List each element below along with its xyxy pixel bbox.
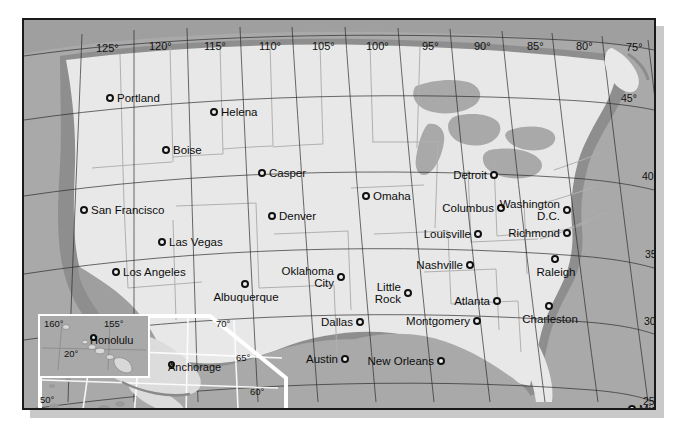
- hawaii-graticule-label-1: 155°: [104, 318, 124, 329]
- city-marker-icon: [337, 273, 345, 281]
- city-label: Miami: [639, 403, 656, 410]
- city-marker-icon: [210, 108, 218, 116]
- city-label: Los Angeles: [123, 266, 186, 279]
- alaska-graticule-label-0: 70°: [216, 318, 230, 329]
- city-marker-icon: [628, 405, 636, 410]
- city-marker-icon: [473, 317, 481, 325]
- latitude-label-1: 40°: [642, 170, 656, 182]
- city-label: Richmond: [508, 227, 560, 240]
- city-marker-icon: [563, 206, 571, 214]
- city-marker-icon: [490, 171, 498, 179]
- city-marker-icon: [551, 255, 559, 263]
- latitude-label-0: 45°: [621, 92, 637, 104]
- city-label: Las Vegas: [169, 236, 223, 249]
- city-label: San Francisco: [91, 204, 165, 217]
- city-label: Montgomery: [406, 315, 470, 328]
- alaska-graticule-label-1: 65°: [236, 352, 250, 363]
- longitude-label-7: 90°: [474, 40, 491, 52]
- longitude-label-9: 80°: [576, 40, 593, 52]
- city-marker-icon: [466, 261, 474, 269]
- city-label: Raleigh: [516, 266, 596, 279]
- city-marker-icon: [158, 238, 166, 246]
- city-marker-icon: [437, 357, 445, 365]
- hawaii-graticule-label-0: 160°: [44, 318, 64, 329]
- city-marker-icon: [162, 146, 170, 154]
- hawaii-graticule-label-2: 20°: [64, 348, 78, 359]
- city-label: Louisville: [424, 228, 471, 241]
- city-label: Dallas: [321, 316, 353, 329]
- city-marker-icon: [106, 94, 114, 102]
- longitude-label-6: 95°: [422, 40, 439, 52]
- city-label: Detroit: [453, 169, 487, 182]
- latitude-label-2: 35°: [645, 248, 656, 260]
- alaska-graticule-label-2: 60°: [250, 386, 264, 397]
- city-label: Helena: [221, 106, 257, 119]
- city-marker-icon: [80, 206, 88, 214]
- map-screenshot: 125°120°115°110°105°100°95°90°85°80°75°7…: [0, 0, 677, 432]
- longitude-label-10: 75°: [626, 41, 643, 53]
- longitude-label-8: 85°: [527, 40, 544, 52]
- city-marker-icon: [112, 268, 120, 276]
- us-reference-map[interactable]: 125°120°115°110°105°100°95°90°85°80°75°7…: [22, 18, 656, 410]
- city-label: Honolulu: [90, 334, 133, 346]
- city-marker-icon: [258, 169, 266, 177]
- city-label: Charleston: [510, 313, 590, 326]
- city-label: LittleRock: [375, 281, 401, 305]
- city-label: Casper: [269, 167, 306, 180]
- city-label: Austin: [306, 353, 338, 366]
- longitude-label-0: 125°: [96, 42, 119, 54]
- city-label: Portland: [117, 92, 160, 105]
- city-label: Omaha: [373, 190, 411, 203]
- city-marker-icon: [563, 229, 571, 237]
- city-label: Albuquerque: [206, 291, 286, 304]
- city-marker-icon: [362, 192, 370, 200]
- city-marker-icon: [474, 230, 482, 238]
- longitude-label-5: 100°: [366, 40, 389, 52]
- city-label: Boise: [173, 144, 202, 157]
- city-label: Anchorage: [168, 361, 221, 373]
- city-marker-icon: [356, 318, 364, 326]
- city-label: Nashville: [416, 259, 463, 272]
- city-marker-icon: [341, 355, 349, 363]
- city-label: Denver: [279, 210, 316, 223]
- city-marker-icon: [493, 297, 501, 305]
- city-marker-icon: [268, 212, 276, 220]
- city-label: Atlanta: [454, 295, 490, 308]
- city-label: New Orleans: [368, 355, 434, 368]
- longitude-label-4: 105°: [312, 40, 335, 52]
- longitude-label-2: 115°: [204, 40, 226, 52]
- city-label: OklahomaCity: [282, 265, 334, 289]
- alaska-graticule-label-3: 50°: [40, 394, 54, 405]
- latitude-label-3: 30°: [644, 315, 656, 327]
- longitude-label-1: 120°: [149, 40, 172, 52]
- city-marker-icon: [545, 302, 553, 310]
- city-label: Columbus: [442, 202, 494, 215]
- city-marker-icon: [241, 280, 249, 288]
- longitude-label-3: 110°: [259, 40, 281, 52]
- city-label: WashingtonD.C.: [500, 198, 560, 222]
- city-marker-icon: [404, 289, 412, 297]
